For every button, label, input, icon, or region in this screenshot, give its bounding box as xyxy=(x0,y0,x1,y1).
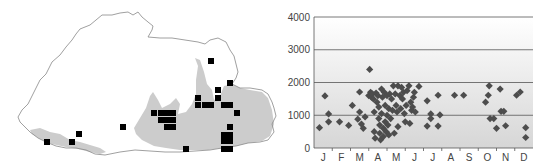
x-tick-label: J xyxy=(412,152,417,163)
record-marker xyxy=(215,87,221,93)
map-svg xyxy=(0,0,280,168)
y-tick-label: 4000 xyxy=(288,12,311,23)
record-marker xyxy=(164,110,170,116)
x-tick-label: M xyxy=(392,152,400,163)
y-tick-label: 1000 xyxy=(288,110,311,121)
record-marker xyxy=(227,124,233,130)
chart-svg: 01000200030004000 JFMAMJJASOND xyxy=(280,0,555,168)
x-tick-label: A xyxy=(448,152,455,163)
record-marker xyxy=(221,102,227,108)
record-marker xyxy=(69,139,75,145)
record-marker xyxy=(215,95,221,101)
x-tick-label: J xyxy=(321,152,326,163)
x-tick-label: F xyxy=(338,152,344,163)
record-marker xyxy=(158,110,164,116)
record-marker xyxy=(208,58,214,64)
x-tick-label: D xyxy=(520,152,527,163)
record-marker xyxy=(227,102,233,108)
record-marker xyxy=(195,102,201,108)
record-marker xyxy=(151,110,157,116)
record-marker xyxy=(170,110,176,116)
record-marker xyxy=(195,95,201,101)
x-tick-label: M xyxy=(355,152,363,163)
x-tick-label: O xyxy=(483,152,491,163)
record-marker xyxy=(202,102,208,108)
y-tick-label: 2000 xyxy=(288,77,311,88)
distribution-map xyxy=(0,0,280,168)
elevation-by-month-chart: 01000200030004000 JFMAMJJASOND xyxy=(280,0,555,168)
record-marker xyxy=(221,138,227,144)
record-marker xyxy=(44,139,50,145)
record-marker xyxy=(158,117,164,123)
x-tick-label: J xyxy=(430,152,435,163)
record-marker xyxy=(234,110,240,116)
range-area xyxy=(30,128,106,154)
record-marker xyxy=(227,138,233,144)
x-tick-label: S xyxy=(466,152,473,163)
elevation-range-shading xyxy=(30,58,274,154)
x-tick-label: N xyxy=(502,152,509,163)
record-marker xyxy=(227,132,233,138)
record-marker xyxy=(76,131,82,137)
record-marker xyxy=(183,146,189,152)
x-tick-label: A xyxy=(375,152,382,163)
record-marker xyxy=(170,124,176,130)
record-marker xyxy=(227,146,233,152)
record-marker xyxy=(164,117,170,123)
y-tick-label: 0 xyxy=(304,143,310,154)
x-axis: JFMAMJJASOND xyxy=(314,148,533,163)
record-marker xyxy=(221,146,227,152)
record-marker xyxy=(227,80,233,86)
record-marker xyxy=(221,132,227,138)
y-tick-label: 3000 xyxy=(288,44,311,55)
record-marker xyxy=(170,117,176,123)
record-marker xyxy=(120,124,126,130)
y-axis: 01000200030004000 xyxy=(288,12,314,154)
record-marker xyxy=(208,102,214,108)
record-marker xyxy=(164,124,170,130)
